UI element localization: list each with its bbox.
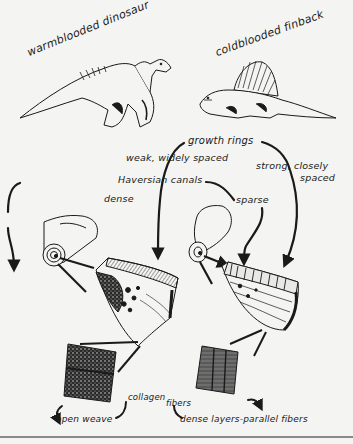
warmblooded-dinosaur-drawing	[20, 59, 171, 127]
growth-rings-label: growth rings	[188, 135, 253, 146]
warmblooded-femur-drawing	[43, 215, 97, 292]
fibers-label: fibers	[166, 398, 191, 408]
haversian-canals-label: Haversian canals	[118, 174, 202, 185]
strong-closely-label: strong, closely	[256, 160, 328, 171]
sparse-label: sparse	[236, 194, 269, 205]
spaced-label: spaced	[300, 172, 335, 183]
dense-label: dense	[104, 193, 134, 204]
collagen-label: collagen	[128, 392, 165, 402]
open-weave-fiber-block	[64, 344, 116, 402]
bottom-rule	[0, 436, 353, 438]
dense-layers-parallel-fibers-label: dense layers-parallel fibers	[180, 414, 308, 424]
illustration-artwork	[0, 0, 353, 444]
parallel-fiber-block	[196, 346, 238, 394]
bone-histology-diagram: warmblooded dinosaur coldblooded finback…	[0, 0, 353, 444]
open-weave-label: open weave	[56, 414, 113, 424]
weak-widely-spaced-label: weak, widely spaced	[126, 152, 228, 163]
coldblooded-finback-drawing	[200, 61, 336, 118]
coldblooded-bone-section	[222, 262, 298, 356]
